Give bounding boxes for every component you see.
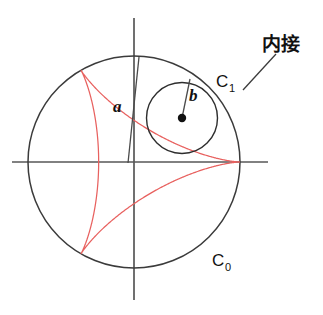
label-inscribed-annotation: 内接	[262, 33, 300, 55]
geometry-diagram: a b C 1 C 0 内接	[0, 0, 323, 315]
label-circle-c1: C	[216, 72, 228, 91]
label-circle-c1-subscript: 1	[229, 82, 235, 94]
inner-circle-center-dot	[178, 114, 186, 122]
label-radius-b: b	[189, 86, 198, 105]
label-circle-c0: C	[212, 251, 224, 270]
label-circle-c0-subscript: 0	[225, 261, 231, 273]
annotation-leader-line	[243, 54, 276, 90]
label-radius-a: a	[113, 97, 122, 116]
diagram-canvas: a b C 1 C 0 内接	[0, 0, 323, 315]
